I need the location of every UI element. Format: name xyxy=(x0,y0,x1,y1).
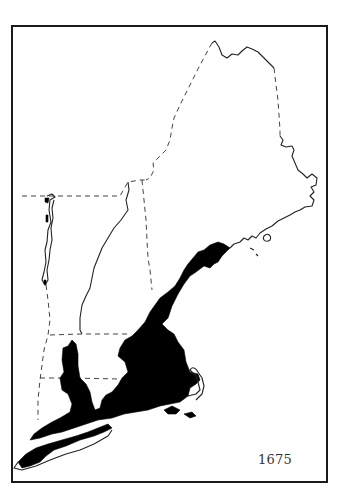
settled-seacoast xyxy=(30,242,230,440)
lake-champlain xyxy=(42,194,55,285)
new-england-map xyxy=(0,0,343,488)
nh-maine-southern-border xyxy=(142,180,152,290)
vt-ny-border xyxy=(38,285,50,420)
connecticut-river xyxy=(80,182,129,334)
ma-north-border xyxy=(50,334,130,335)
year-label: 1675 xyxy=(258,452,292,467)
maine-outline xyxy=(212,41,274,68)
maine-canada-border xyxy=(274,68,280,136)
maine-coast xyxy=(230,136,317,248)
maine-nh-border xyxy=(146,43,212,180)
marthas-vineyard xyxy=(164,406,196,418)
maine-coast-islands xyxy=(250,234,271,256)
